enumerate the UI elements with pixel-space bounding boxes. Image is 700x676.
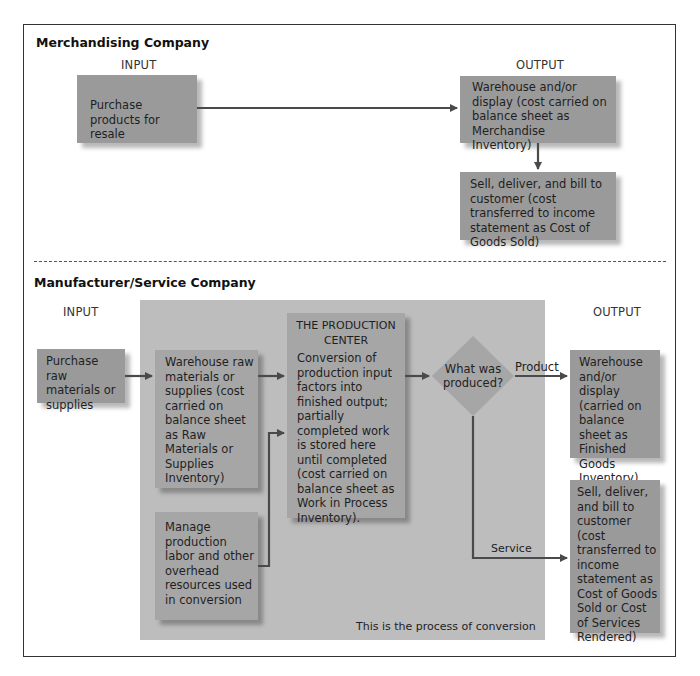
production-center-title: THE PRODUCTION CENTER	[291, 319, 401, 348]
mfr-manage-box: Manage production labor and other overhe…	[155, 512, 258, 620]
panel-caption: This is the process of conversion	[356, 620, 536, 633]
mfr-purchase-box: Purchase raw materials or supplies	[37, 349, 125, 403]
manufacturer-input-label: INPUT	[63, 305, 98, 319]
merch-sell-box: Sell, deliver, and bill to customer (cos…	[460, 172, 616, 240]
section-divider	[34, 261, 666, 262]
merchandising-title: Merchandising Company	[36, 35, 209, 50]
manufacturer-output-label: OUTPUT	[593, 305, 641, 319]
decision-text: What was produced?	[432, 362, 514, 390]
product-label: Product	[515, 360, 559, 374]
manufacturer-title: Manufacturer/Service Company	[34, 275, 256, 290]
merchandising-output-label: OUTPUT	[516, 58, 564, 72]
merch-warehouse-box: Warehouse and/or display (cost carried o…	[460, 76, 616, 143]
merch-purchase-box: Purchase products for resale	[77, 75, 197, 143]
merchandising-input-label: INPUT	[121, 58, 156, 72]
mfr-sell-box: Sell, deliver, and bill to customer (cos…	[570, 480, 660, 633]
mfr-finished-goods-box: Warehouse and/or display (carried on bal…	[570, 350, 660, 458]
mfr-warehouse-raw-box: Warehouse raw materials or supplies (cos…	[155, 350, 258, 488]
service-label: Service	[491, 542, 532, 555]
production-center-box: THE PRODUCTION CENTER Conversion of prod…	[287, 313, 405, 518]
production-center-body: Conversion of production input factors i…	[297, 351, 401, 525]
